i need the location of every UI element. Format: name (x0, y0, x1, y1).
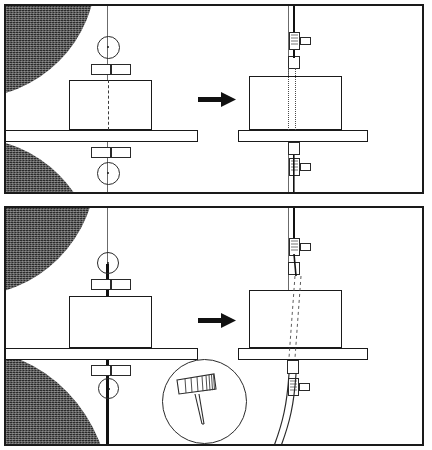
panel-bottom (4, 206, 424, 446)
deflected-bore-and-shaft (6, 208, 422, 444)
clamp-lower-detail (6, 6, 422, 192)
panel-top (4, 4, 424, 194)
diagram-canvas (0, 0, 432, 450)
